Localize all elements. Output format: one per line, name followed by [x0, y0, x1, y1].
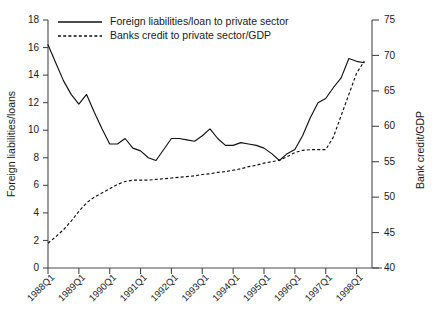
y2-tick-label: 45: [384, 227, 396, 238]
axes-group: [48, 20, 382, 268]
y-tick-label: 14: [28, 69, 40, 80]
y-axis-right-ticks: 4045505560657075: [372, 14, 396, 273]
data-series-group: [48, 45, 364, 243]
y-tick-label: 10: [28, 124, 40, 135]
legend-label-2: Banks credit to private sector/GDP: [110, 29, 271, 41]
y2-tick-label: 55: [384, 156, 396, 167]
y-tick-label: 6: [33, 179, 39, 190]
y-axis-left-title: Foreign liabilities/loans: [5, 91, 17, 197]
y-axis-right-title: Bank credit/GDP: [414, 111, 426, 189]
legend-label-1: Foreign liabilities/loan to private sect…: [110, 15, 289, 27]
x-tick-label: 1992Q1: [148, 272, 180, 304]
y2-tick-label: 65: [384, 85, 396, 96]
y-tick-label: 12: [28, 97, 40, 108]
y2-tick-label: 70: [384, 50, 396, 61]
y-axis-left-ticks: 024681012141618: [28, 14, 48, 273]
x-tick-label: 1995Q1: [241, 272, 273, 304]
y2-tick-label: 75: [384, 14, 396, 25]
y-tick-label: 4: [33, 207, 39, 218]
series-line-2: [48, 61, 364, 243]
x-tick-label: 1994Q1: [210, 272, 242, 304]
y-tick-label: 0: [33, 262, 39, 273]
x-tick-label: 1997Q1: [302, 272, 334, 304]
y2-tick-label: 50: [384, 191, 396, 202]
y2-tick-label: 60: [384, 120, 396, 131]
chart-legend: Foreign liabilities/loan to private sect…: [58, 15, 289, 41]
x-tick-label: 1998Q1: [333, 272, 365, 304]
chart-figure: 024681012141618 4045505560657075 1988Q11…: [0, 0, 436, 325]
y-tick-label: 2: [33, 235, 39, 246]
x-tick-label: 1989Q1: [56, 272, 88, 304]
x-axis-ticks: 1988Q11989Q11990Q11991Q11992Q11993Q11994…: [25, 268, 365, 303]
line-chart: 024681012141618 4045505560657075 1988Q11…: [0, 0, 436, 325]
x-tick-label: 1996Q1: [272, 272, 304, 304]
x-tick-label: 1991Q1: [117, 272, 149, 304]
x-tick-label: 1990Q1: [86, 272, 118, 304]
x-tick-label: 1988Q1: [25, 272, 57, 304]
series-line-1: [48, 45, 364, 161]
y-tick-label: 16: [28, 42, 40, 53]
y-tick-label: 8: [33, 152, 39, 163]
x-tick-label: 1993Q1: [179, 272, 211, 304]
y2-tick-label: 40: [384, 262, 396, 273]
y-tick-label: 18: [28, 14, 40, 25]
